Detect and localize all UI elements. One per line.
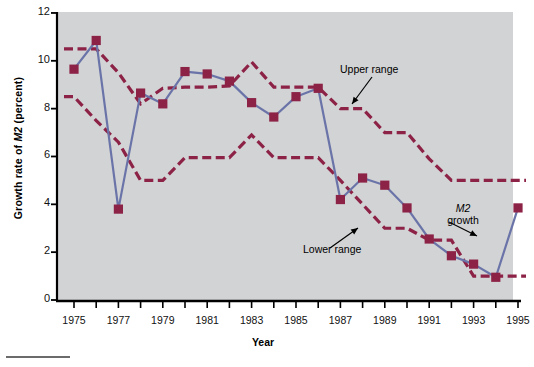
lower-range-line bbox=[64, 97, 526, 276]
data-point-marker bbox=[247, 98, 256, 107]
data-point-marker bbox=[402, 203, 411, 212]
data-point-marker bbox=[69, 65, 78, 74]
annotation-m2-growth: M2 growth bbox=[438, 202, 488, 226]
data-point-marker bbox=[114, 205, 123, 214]
annotation-m2-italic: M2 bbox=[456, 202, 471, 214]
data-point-marker bbox=[225, 77, 234, 86]
data-point-marker bbox=[447, 251, 456, 260]
data-point-marker bbox=[469, 260, 478, 269]
upper-range-line bbox=[64, 49, 526, 181]
data-point-marker bbox=[513, 203, 522, 212]
annotation-lower-range: Lower range bbox=[303, 243, 361, 255]
annotation-upper-range: Upper range bbox=[340, 63, 398, 75]
data-point-marker bbox=[358, 173, 367, 182]
data-point-marker bbox=[92, 36, 101, 45]
data-point-marker bbox=[158, 99, 167, 108]
data-point-marker bbox=[203, 69, 212, 78]
data-point-marker bbox=[136, 88, 145, 97]
annotation-arrow-lower-range-head bbox=[351, 228, 358, 234]
data-point-marker bbox=[425, 234, 434, 243]
footer-divider bbox=[6, 356, 70, 358]
data-point-marker bbox=[314, 84, 323, 93]
data-point-marker bbox=[269, 112, 278, 121]
data-point-marker bbox=[291, 92, 300, 101]
annotation-arrow-upper-range-head bbox=[352, 97, 359, 104]
data-point-marker bbox=[180, 67, 189, 76]
data-point-marker bbox=[336, 195, 345, 204]
annotation-m2-rest: growth bbox=[447, 214, 479, 226]
data-point-marker bbox=[491, 273, 500, 282]
data-point-marker bbox=[380, 181, 389, 190]
